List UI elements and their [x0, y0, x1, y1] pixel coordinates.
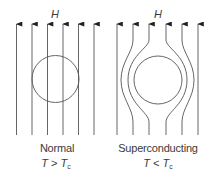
superconducting-sample-circle [134, 56, 182, 104]
comparison-operator: < [150, 157, 163, 169]
critical-temperature-symbol: T [163, 157, 170, 169]
meissner-effect-diagram [0, 0, 211, 184]
field-line-bent [121, 24, 133, 135]
normal-state-label: Normal [40, 142, 74, 154]
superconducting-state-label: Superconducting [118, 142, 198, 154]
field-line-bent [128, 24, 149, 135]
critical-subscript: c [169, 163, 173, 170]
superconducting-field-label: H [154, 8, 162, 20]
normal-sample-circle [32, 56, 79, 103]
temperature-symbol: T [143, 157, 150, 169]
critical-temperature-symbol: T [61, 157, 68, 169]
normal-field-lines [17, 24, 95, 135]
normal-panel [17, 24, 95, 135]
field-line-bent [182, 24, 194, 135]
superconducting-panel [117, 24, 198, 135]
superconducting-field-lines [117, 24, 198, 135]
normal-condition-label: T > Tc [41, 157, 71, 170]
normal-field-label: H [51, 8, 59, 20]
temperature-symbol: T [41, 157, 48, 169]
critical-subscript: c [67, 163, 71, 170]
comparison-operator: > [48, 157, 61, 169]
superconducting-condition-label: T < Tc [143, 157, 173, 170]
field-line-bent [166, 24, 187, 135]
